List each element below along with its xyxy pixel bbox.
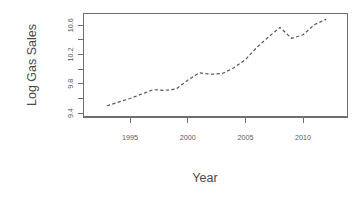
line-chart-plot: 10.6 10.2 9.8 9.4 1995 2000 2005 2010 Lo… <box>0 0 361 197</box>
x-axis-ticks <box>130 117 303 123</box>
y-tick-label-10.2: 10.2 <box>66 48 75 62</box>
x-tick-label-2005: 2005 <box>237 133 253 142</box>
y-axis-tick-labels: 10.6 10.2 9.8 9.4 <box>66 18 75 118</box>
y-axis-title: Log Gas Sales <box>25 24 39 106</box>
y-tick-label-9.4: 9.4 <box>66 108 75 118</box>
y-axis-ticks <box>78 25 84 113</box>
chart-screenshot: 10.6 10.2 9.8 9.4 1995 2000 2005 2010 Lo… <box>0 0 361 197</box>
plot-box-frame <box>84 14 348 118</box>
y-tick-label-9.8: 9.8 <box>66 79 75 89</box>
y-tick-label-10.6: 10.6 <box>66 18 75 32</box>
x-tick-label-2000: 2000 <box>180 133 196 142</box>
data-series-log-gas-sales <box>107 19 326 105</box>
x-tick-label-2010: 2010 <box>295 133 311 142</box>
x-tick-label-1995: 1995 <box>122 133 138 142</box>
x-axis-tick-labels: 1995 2000 2005 2010 <box>122 133 311 142</box>
x-axis-title: Year <box>192 171 217 185</box>
